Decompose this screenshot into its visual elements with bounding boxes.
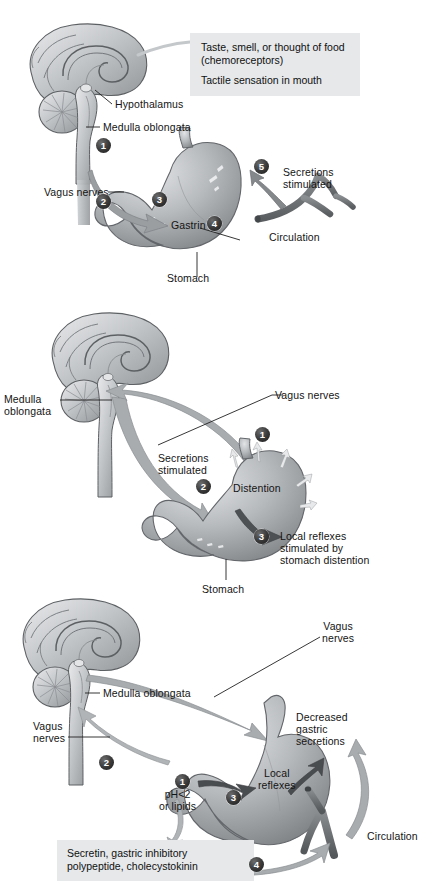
label-stomach: Stomach	[167, 272, 209, 284]
callout-line-2: (chemoreceptors)	[201, 54, 349, 67]
step-badge-1: 1	[96, 138, 111, 153]
label-local-reflexes: Local reflexes	[258, 767, 296, 791]
step-badge-4: 4	[207, 216, 222, 231]
step-badge-1: 1	[175, 774, 190, 789]
step-badge-3: 3	[152, 192, 167, 207]
callout-line-1: Secretin, gastric inhibitory	[67, 847, 245, 860]
step-badge-5: 5	[254, 159, 269, 174]
panel-intestinal-phase: Vagus nerves Medulla oblongata Vagus ner…	[0, 585, 439, 891]
label-hypothalamus: Hypothalamus	[115, 98, 183, 110]
step-badge-1: 1	[255, 427, 270, 442]
panel-cephalic-phase: Taste, smell, or thought of food (chemor…	[0, 0, 439, 297]
label-distention: Distention	[233, 482, 281, 494]
label-circulation: Circulation	[367, 830, 418, 842]
label-local-reflexes: Local reflexes stimulated by stomach dis…	[280, 530, 369, 567]
step-badge-4: 4	[249, 857, 264, 872]
label-vagus-nerves-right: Vagus nerves	[322, 620, 354, 644]
label-ph-or-lipids: pH<2 or lipids	[159, 788, 196, 812]
gastric-phase-artwork	[0, 297, 439, 585]
label-vagus-nerves-left: Vagus nerves	[33, 720, 65, 744]
intestinal-hormones-callout: Secretin, gastric inhibitory polypeptide…	[57, 840, 254, 881]
panel-gastric-phase: Medulla oblongata Vagus nerves Secretion…	[0, 297, 439, 585]
callout-line-1: Taste, smell, or thought of food	[201, 41, 349, 54]
callout-line-3: Tactile sensation in mouth	[201, 74, 349, 87]
label-gastrin: Gastrin	[171, 219, 206, 231]
label-vagus-nerves: Vagus nerves	[275, 389, 340, 401]
step-badge-2: 2	[196, 479, 211, 494]
step-badge-2: 2	[99, 755, 114, 770]
callout-line-2: polypeptide, cholecystokinin	[67, 860, 245, 873]
label-secretions-stimulated: Secretions stimulated	[158, 452, 209, 476]
step-badge-2: 2	[96, 194, 111, 209]
label-medulla-oblongata: Medulla oblongata	[4, 393, 51, 417]
label-decreased-gastric-secretions: Decreased gastric secretions	[296, 711, 348, 748]
label-circulation: Circulation	[269, 231, 320, 243]
stomach-illustration	[95, 127, 241, 249]
label-medulla-oblongata: Medulla oblongata	[103, 121, 191, 133]
label-secretions-stimulated: Secretions stimulated	[283, 166, 334, 190]
cephalic-stimuli-callout: Taste, smell, or thought of food (chemor…	[190, 33, 360, 96]
label-medulla-oblongata: Medulla oblongata	[103, 687, 191, 699]
step-badge-3: 3	[226, 790, 241, 805]
step-badge-3: 3	[254, 529, 269, 544]
